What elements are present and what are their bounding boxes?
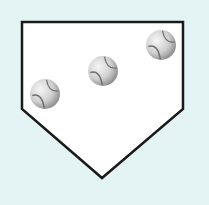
- baseball-icon: [30, 79, 60, 109]
- baseball-icon: [88, 56, 118, 86]
- baseball-icon: [146, 30, 176, 60]
- home-plate-diagram: [0, 0, 209, 205]
